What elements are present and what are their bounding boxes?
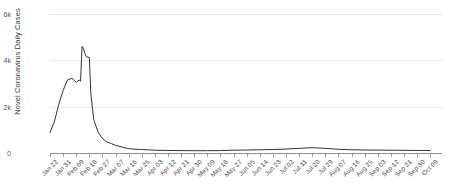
x-axis-tick-mark xyxy=(194,154,195,157)
y-axis-tick-label: 4k xyxy=(0,57,11,64)
x-axis-tick-mark xyxy=(234,154,235,157)
x-axis-tick-mark xyxy=(155,154,156,157)
series-line-coronavirus-daily-cases xyxy=(50,14,442,153)
y-axis-tick-label: 0 xyxy=(0,150,11,157)
x-axis-tick-mark xyxy=(181,154,182,157)
x-axis-tick-labels: Jan 22Jan 31Feb 09Feb 18Feb 27Mar 07Mar … xyxy=(50,158,442,191)
y-axis-tick-label: 2k xyxy=(0,103,11,110)
x-axis-tick-mark xyxy=(89,154,90,157)
x-axis-tick-mark xyxy=(430,154,431,157)
x-axis-tick-mark xyxy=(404,154,405,157)
x-axis-tick-mark xyxy=(129,154,130,157)
x-axis-tick-mark xyxy=(260,154,261,157)
x-axis-tick-mark xyxy=(417,154,418,157)
x-axis-tick-mark xyxy=(299,154,300,157)
x-axis-tick-mark xyxy=(116,154,117,157)
x-axis-tick-mark xyxy=(63,154,64,157)
x-axis-tick-mark xyxy=(50,154,51,157)
x-axis-tick-mark xyxy=(365,154,366,157)
plot-area xyxy=(50,14,442,153)
x-axis-tick-mark xyxy=(378,154,379,157)
coronavirus-daily-cases-chart: Novel Coronavirus Daily Cases 02k4k6k Ja… xyxy=(0,0,465,191)
x-axis-tick-mark xyxy=(391,154,392,157)
x-axis-tick-mark xyxy=(76,154,77,157)
x-axis-tick-mark xyxy=(220,154,221,157)
x-axis-tick-mark xyxy=(325,154,326,157)
x-axis-tick-mark xyxy=(352,154,353,157)
x-axis-tick-mark xyxy=(247,154,248,157)
x-axis-tick-mark xyxy=(207,154,208,157)
x-axis-tick-mark xyxy=(286,154,287,157)
y-axis-tick-label: 6k xyxy=(0,11,11,18)
x-axis-tick-mark xyxy=(142,154,143,157)
x-axis-tick-mark xyxy=(273,154,274,157)
x-axis-tick-mark xyxy=(102,154,103,157)
x-axis-tick-mark xyxy=(312,154,313,157)
y-axis-title: Novel Coronavirus Daily Cases xyxy=(0,0,34,157)
x-axis-tick-mark xyxy=(168,154,169,157)
x-axis-tick-mark xyxy=(338,154,339,157)
